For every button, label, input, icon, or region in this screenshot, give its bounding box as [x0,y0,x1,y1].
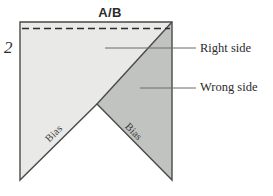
step-number-label: 2 [4,38,13,58]
callout-label-right-side: Right side [200,41,251,56]
callout-label-wrong-side: Wrong side [200,80,257,95]
page-title: A/B [70,5,150,20]
figure-canvas [0,0,273,196]
